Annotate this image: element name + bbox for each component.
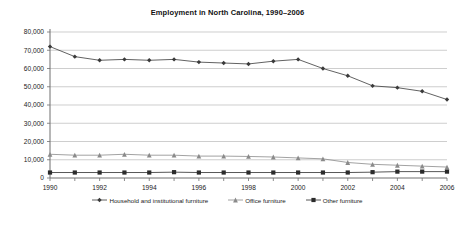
gridlines xyxy=(50,32,447,160)
data-point-diamond xyxy=(147,58,151,62)
y-tick-label: 40,000 xyxy=(24,101,45,108)
data-point-square xyxy=(98,170,102,174)
data-point-diamond xyxy=(221,61,225,65)
data-point-diamond xyxy=(346,74,350,78)
data-point-square xyxy=(395,170,399,174)
x-tick-label: 1996 xyxy=(192,184,207,191)
y-tick-label: 0 xyxy=(40,174,44,181)
data-point-diamond xyxy=(98,198,102,202)
data-point-square xyxy=(197,170,201,174)
data-point-square xyxy=(346,170,350,174)
legend-marker-triangle-icon xyxy=(228,196,243,204)
y-axis-labels: 010,00020,00030,00040,00050,00060,00070,… xyxy=(24,28,45,181)
chart-container: Employment in North Carolina, 1990–2006 … xyxy=(0,0,455,226)
x-tick-label: 1998 xyxy=(241,184,256,191)
chart-legend: Household and institutional furnitureOff… xyxy=(0,196,455,204)
legend-label: Household and institutional furniture xyxy=(109,197,208,204)
data-point-diamond xyxy=(172,57,176,61)
data-point-diamond xyxy=(321,66,325,70)
legend-item[interactable]: Office furniture xyxy=(228,196,285,204)
legend-label: Office furniture xyxy=(245,197,285,204)
data-point-diamond xyxy=(197,60,201,64)
series-line xyxy=(50,47,447,100)
data-point-square xyxy=(420,170,424,174)
x-tick-label: 2006 xyxy=(440,184,455,191)
data-point-square xyxy=(147,170,151,174)
data-point-square xyxy=(48,170,52,174)
legend-marker-square-icon xyxy=(306,196,321,204)
data-point-diamond xyxy=(97,58,101,62)
data-point-diamond xyxy=(73,54,77,58)
data-point-square xyxy=(246,170,250,174)
x-tick-label: 1992 xyxy=(92,184,107,191)
x-tick-label: 1994 xyxy=(142,184,157,191)
plot-area: 010,00020,00030,00040,00050,00060,00070,… xyxy=(0,0,455,226)
x-axis-labels: 199019921994199619982000200220042006 xyxy=(43,184,455,191)
data-point-square xyxy=(445,170,449,174)
x-tick-label: 2004 xyxy=(390,184,405,191)
y-tick-label: 10,000 xyxy=(24,156,45,163)
x-tick-label: 1990 xyxy=(43,184,58,191)
legend-item[interactable]: Household and institutional furniture xyxy=(92,196,208,204)
data-point-square xyxy=(172,170,176,174)
legend-label: Other furniture xyxy=(323,197,363,204)
y-tick-label: 70,000 xyxy=(24,47,45,54)
data-point-square xyxy=(370,170,374,174)
x-tick-label: 2000 xyxy=(291,184,306,191)
data-point-diamond xyxy=(420,89,424,93)
data-point-diamond xyxy=(122,57,126,61)
y-tick-label: 80,000 xyxy=(24,28,45,35)
data-point-diamond xyxy=(445,97,449,101)
data-point-diamond xyxy=(246,62,250,66)
legend-marker-diamond-icon xyxy=(92,196,107,204)
data-point-square xyxy=(122,170,126,174)
data-point-diamond xyxy=(296,57,300,61)
data-point-diamond xyxy=(271,59,275,63)
y-tick-label: 30,000 xyxy=(24,120,45,127)
data-point-square xyxy=(222,170,226,174)
data-point-square xyxy=(296,170,300,174)
legend-item[interactable]: Other furniture xyxy=(306,196,363,204)
y-tick-label: 20,000 xyxy=(24,138,45,145)
data-point-diamond xyxy=(395,85,399,89)
data-point-diamond xyxy=(48,44,52,48)
data-point-square xyxy=(73,170,77,174)
y-tick-label: 60,000 xyxy=(24,65,45,72)
data-point-square xyxy=(271,170,275,174)
data-point-diamond xyxy=(370,84,374,88)
y-tick-label: 50,000 xyxy=(24,83,45,90)
data-point-square xyxy=(321,170,325,174)
x-tick-label: 2002 xyxy=(340,184,355,191)
data-point-square xyxy=(311,198,315,202)
